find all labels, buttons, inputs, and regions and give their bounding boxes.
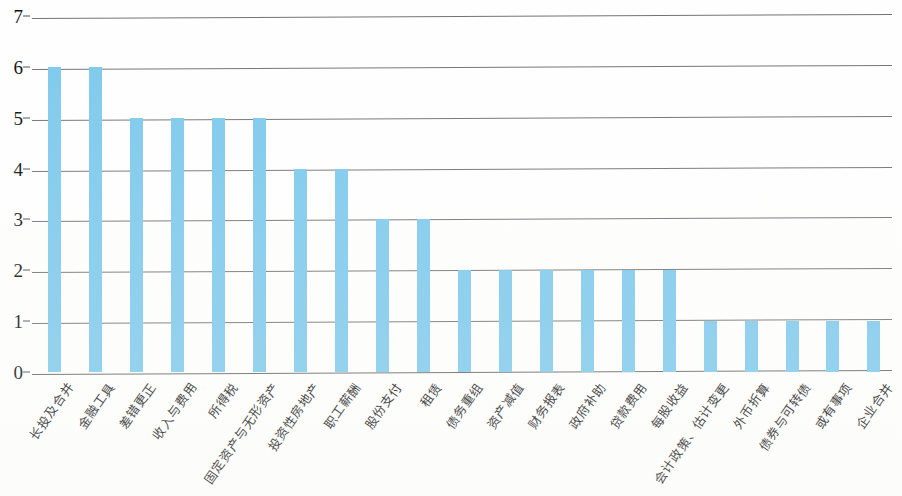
bar [458,270,471,372]
category-label: 政府补助 [564,378,610,432]
bar [130,118,143,372]
category-label: 租赁 [415,378,446,411]
bar [48,67,61,372]
bar [581,270,594,372]
bar [376,219,389,372]
bar [417,219,430,372]
y-axis-tick-label: 4 [14,159,24,178]
y-tick-mark-4 [23,168,30,169]
y-axis-tick-label: 7 [14,7,24,26]
category-label: 所得税 [203,378,241,422]
bar [622,270,635,372]
y-axis-tick-label: 3 [14,210,24,229]
category-label: 资产减值 [482,378,528,432]
y-tick-mark-1 [23,321,30,322]
bar [499,270,512,372]
bar [826,321,839,372]
bars-layer [32,16,892,372]
category-label: 会计政策、估计变更 [648,378,732,487]
bar [745,321,758,372]
bar [212,118,225,372]
category-labels-layer: 长投及合并金融工具差错更正收入与费用所得税固定资产与无形资产投资性房地产职工薪酬… [32,374,892,494]
y-tick-mark-7 [23,16,30,17]
bar [704,321,717,372]
y-tick-mark-5 [23,117,30,118]
category-label: 长投及合并 [24,378,78,443]
y-axis-tick-label: 5 [14,108,24,127]
category-label: 或有事项 [809,378,855,432]
bar [867,321,880,372]
bar [89,67,102,372]
plot-area: 01234567 [32,16,892,372]
bar [540,270,553,372]
category-label: 财务报表 [523,378,569,432]
y-axis-tick-label: 6 [14,57,24,76]
y-axis-tick-label: 2 [14,261,24,280]
y-axis-tick-label: 0 [14,363,24,382]
category-label: 企业合并 [850,378,896,432]
category-label: 债务重组 [441,378,487,432]
bar [335,169,348,372]
y-axis-tick-label: 1 [14,312,24,331]
y-tick-mark-2 [23,270,30,271]
bar-chart-figure: 01234567 长投及合并金融工具差错更正收入与费用所得税固定资产与无形资产投… [0,0,902,496]
category-label: 职工薪酬 [318,378,364,432]
bar [171,118,184,372]
y-tick-mark-0 [23,372,30,373]
bar [253,118,266,372]
y-tick-mark-6 [23,66,30,67]
bar [663,270,676,372]
bar [786,321,799,372]
category-label: 金融工具 [72,378,118,432]
category-label: 股份支付 [359,378,405,432]
bar [294,169,307,372]
category-label: 贷款费用 [605,378,651,432]
y-tick-mark-3 [23,219,30,220]
